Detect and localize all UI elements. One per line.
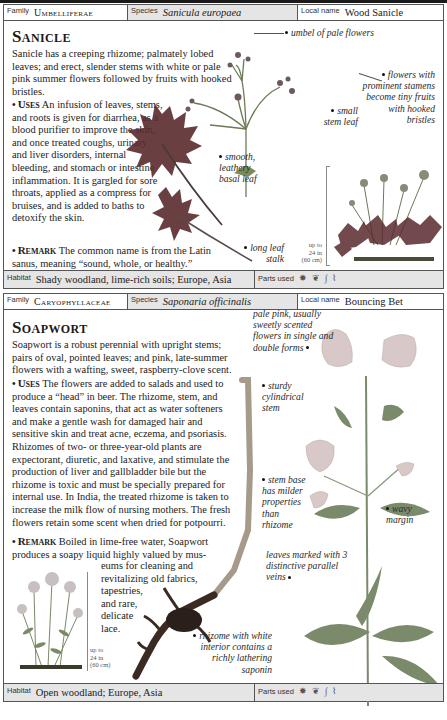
annotation-text: sturdy cylindrical stem [262, 380, 304, 413]
scale-line: up to [90, 646, 114, 654]
annotation-dot [262, 384, 265, 387]
annotation-basal-leaf: smooth, leathery basal leaf [219, 151, 271, 185]
annotation-text: long leaf stalk [250, 242, 284, 264]
entry-header: Family Caryophyllaceae Species Saponaria… [4, 294, 443, 310]
bullet: • [12, 536, 16, 547]
habitat-cell: Habitat Open woodland; Europe, Asia [4, 684, 255, 701]
annotation-text: flowers with prominent stamens become ti… [363, 69, 435, 125]
species-cell: Species Saponaria officinalis [128, 294, 298, 309]
annotation-dot [285, 31, 288, 34]
entry-sanicle: Family Umbelliferae Species Sanicula eur… [3, 4, 444, 289]
scale-line: 24 in [294, 249, 322, 257]
annotation-text: leaves marked with 3 distinctive paralle… [266, 549, 347, 582]
annotation-dot [382, 73, 385, 76]
entry-footer: Habitat Open woodland; Europe, Asia Part… [4, 683, 443, 701]
uses-label: Uses [18, 98, 40, 110]
parts-icons: ✸ ❦ ∫ ⌇ [299, 687, 336, 696]
species-cell: Species Sanicula europaea [128, 5, 298, 20]
parts-used-label: Parts used [258, 274, 294, 283]
leader-line [254, 33, 284, 34]
family-value: Caryophyllaceae [34, 296, 111, 307]
annotation-stem: sturdy cylindrical stem [262, 380, 312, 414]
habitat-value: Open woodland; Europe, Asia [36, 687, 163, 698]
local-name-cell: Local name Bouncing Bet [298, 294, 443, 309]
local-name-label: Local name [301, 295, 340, 304]
annotation-text: umbel of pale flowers [291, 27, 374, 38]
local-name-value: Wood Sanicle [345, 7, 403, 18]
entry-soapwort: Family Caryophyllaceae Species Saponaria… [3, 293, 444, 702]
family-label: Family [7, 295, 29, 304]
annotation-dot [306, 346, 309, 349]
annotation-dot [331, 109, 334, 112]
root-icon: ⌇ [332, 274, 336, 283]
local-name-cell: Local name Wood Sanicle [298, 5, 443, 20]
annotation-leaf-stalk: long leaf stalk [234, 242, 284, 264]
bullet: • [12, 378, 16, 389]
annotation-flowers: pale pink, usually sweetly scented flowe… [253, 308, 339, 353]
scale-line: 24 in [90, 654, 114, 662]
entry-header: Family Umbelliferae Species Sanicula eur… [4, 5, 443, 21]
remark-label: Remark [18, 535, 57, 547]
family-cell: Family Umbelliferae [4, 5, 128, 20]
whole-plant-icon: ✸ [299, 274, 307, 283]
root-icon: ⌇ [332, 687, 336, 696]
scale-line: (60 cm) [294, 256, 322, 264]
bullet: • [12, 99, 16, 110]
annotation-text: small stem leaf [324, 105, 358, 127]
local-name-label: Local name [301, 6, 340, 15]
parts-used-cell: Parts used ✸ ❦ ∫ ⌇ [255, 684, 443, 701]
annotation-text: smooth, leathery basal leaf [219, 151, 257, 184]
annotation-margin: wavy margin [386, 503, 426, 525]
top-rule [0, 0, 447, 3]
intro-paragraph: Sanicle has a creeping rhizome; palmatel… [12, 48, 234, 98]
intro-paragraph: Soapwort is a robust perennial with upri… [12, 339, 238, 377]
annotation-flowers: flowers with prominent stamens become ti… [359, 69, 435, 125]
scale-line: up to [294, 241, 322, 249]
whole-plant-illustration [334, 165, 446, 265]
scale-bar [87, 572, 88, 671]
habitat-label: Habitat [7, 686, 31, 695]
family-label: Family [7, 6, 29, 15]
habitat-value: Shady woodland, lime-rich soils; Europe,… [36, 274, 232, 285]
habitat-label: Habitat [7, 273, 31, 282]
remark-label: Remark [18, 244, 57, 256]
entry-footer: Habitat Shady woodland, lime-rich soils;… [4, 270, 443, 288]
annotation-text: stem base has milder properties than rhi… [262, 474, 306, 530]
whole-plant-icon: ✸ [299, 687, 307, 696]
family-value: Umbelliferae [34, 7, 93, 18]
annotation-text: wavy margin [386, 503, 413, 525]
scale-line: (60 cm) [90, 661, 114, 669]
stem-icon: ∫ [325, 274, 327, 283]
annotation-dot [193, 634, 196, 637]
annotation-rhizome: rhizome with white interior contains a r… [180, 630, 272, 675]
parts-used-cell: Parts used ✸ ❦ ∫ ⌇ [255, 271, 443, 288]
species-label: Species [131, 295, 158, 304]
annotation-dot [244, 246, 247, 249]
habitat-cell: Habitat Shady woodland, lime-rich soils;… [4, 271, 255, 288]
annotation-text: rhizome with white interior contains a r… [199, 630, 272, 675]
scale-label: up to 24 in (60 cm) [90, 646, 114, 669]
family-cell: Family Caryophyllaceae [4, 294, 128, 309]
parts-icons: ✸ ❦ ∫ ⌇ [299, 274, 336, 283]
bullet: • [12, 245, 16, 256]
annotation-veins: leaves marked with 3 distinctive paralle… [266, 549, 350, 583]
annotation-umbel: umbel of pale flowers [285, 27, 425, 38]
annotation-dot [219, 155, 222, 158]
entry-title: Sanicle [12, 27, 71, 47]
scale-label: up to 24 in (60 cm) [294, 241, 322, 264]
species-value: Sanicula europaea [163, 7, 242, 18]
entry-title: Soapwort [12, 318, 88, 338]
intro-text: Sanicle has a creeping rhizome; palmatel… [12, 48, 234, 98]
parts-used-label: Parts used [258, 687, 294, 696]
local-name-value: Bouncing Bet [345, 296, 403, 307]
annotation-dot [288, 576, 291, 579]
uses-label: Uses [18, 377, 40, 389]
whole-plant-illustration [16, 571, 86, 671]
annotation-small-leaf: small stem leaf [318, 105, 358, 127]
species-value: Saponaria officinalis [163, 296, 251, 307]
annotation-dot [262, 478, 265, 481]
intro-text: Soapwort is a robust perennial with upri… [12, 339, 238, 377]
annotation-dot [386, 507, 389, 510]
annotation-stem-base: stem base has milder properties than rhi… [262, 474, 308, 530]
annotation-text: pale pink, usually sweetly scented flowe… [253, 308, 333, 353]
